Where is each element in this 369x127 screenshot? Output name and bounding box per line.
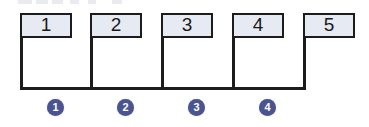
clipped-text-artifact xyxy=(36,0,48,4)
interval-marker-1[interactable]: 1 xyxy=(47,99,64,116)
node-box-2[interactable]: 2 xyxy=(90,13,142,38)
clipped-text-artifact xyxy=(112,0,122,4)
interval-marker-label: 3 xyxy=(193,102,199,113)
node-box-5[interactable]: 5 xyxy=(303,13,355,38)
interval-marker-2[interactable]: 2 xyxy=(117,99,134,116)
interval-marker-label: 2 xyxy=(122,102,128,113)
node-box-label: 5 xyxy=(324,15,335,34)
interval-marker-label: 4 xyxy=(264,102,270,113)
node-box-label: 2 xyxy=(111,15,122,34)
node-box-label: 1 xyxy=(41,15,52,34)
node-box-3[interactable]: 3 xyxy=(161,13,213,38)
clipped-text-artifact xyxy=(88,0,96,4)
node-box-label: 3 xyxy=(182,15,193,34)
interval-marker-3[interactable]: 3 xyxy=(188,99,205,116)
node-box-label: 4 xyxy=(253,15,264,34)
baseline xyxy=(20,87,306,90)
interval-marker-4[interactable]: 4 xyxy=(259,99,276,116)
clipped-text-artifact xyxy=(18,0,32,4)
clipped-text-artifact xyxy=(52,0,63,4)
interval-marker-label: 1 xyxy=(52,102,58,113)
node-box-1[interactable]: 1 xyxy=(20,13,72,38)
node-box-4[interactable]: 4 xyxy=(232,13,284,38)
interval-timeline-diagram: 12345 1234 xyxy=(0,0,369,127)
clipped-text-artifact xyxy=(70,0,79,4)
